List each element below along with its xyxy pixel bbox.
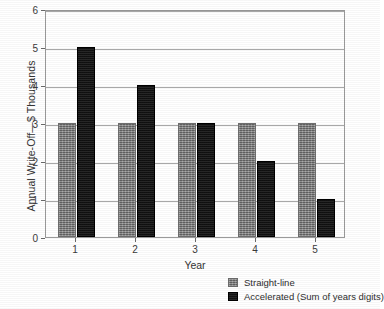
y-tick-label: 4 — [20, 81, 38, 92]
x-tick-label: 4 — [243, 244, 267, 255]
bar — [197, 123, 215, 237]
y-axis-title: Annual Write-Off—$ Thousands — [25, 31, 37, 241]
plot-area — [45, 10, 345, 238]
x-tick-mark — [135, 238, 136, 242]
bar — [118, 123, 136, 237]
x-tick-mark — [255, 238, 256, 242]
y-tick-mark — [41, 238, 45, 239]
y-tick-label: 5 — [20, 43, 38, 54]
y-tick-label: 6 — [20, 5, 38, 16]
bar — [257, 161, 275, 237]
bar-group — [46, 11, 106, 237]
legend-label: Straight-line — [244, 277, 295, 288]
x-tick-label: 1 — [63, 244, 87, 255]
bar-group — [106, 11, 166, 237]
x-tick-mark — [315, 238, 316, 242]
bar-group — [286, 11, 346, 237]
x-tick-label: 3 — [183, 244, 207, 255]
bar-group — [226, 11, 286, 237]
legend-swatch — [228, 292, 238, 301]
bar — [58, 123, 76, 237]
bar — [137, 85, 155, 237]
x-tick-mark — [195, 238, 196, 242]
bar — [317, 199, 335, 237]
x-axis-title: Year — [45, 259, 345, 271]
legend-item: Accelerated (Sum of years digits) — [228, 290, 384, 303]
bar-groups — [46, 11, 344, 237]
y-tick-label: 3 — [20, 119, 38, 130]
bar — [298, 123, 316, 237]
x-tick-label: 5 — [303, 244, 327, 255]
legend-item: Straight-line — [228, 276, 384, 289]
y-tick-label: 0 — [20, 233, 38, 244]
bar — [178, 123, 196, 237]
legend-swatch — [228, 278, 238, 287]
bar — [238, 123, 256, 237]
bar — [77, 47, 95, 237]
legend-label: Accelerated (Sum of years digits) — [244, 291, 384, 302]
x-tick-label: 2 — [123, 244, 147, 255]
chart-legend: Straight-lineAccelerated (Sum of years d… — [228, 276, 384, 304]
bar-group — [166, 11, 226, 237]
y-tick-label: 1 — [20, 195, 38, 206]
y-tick-label: 2 — [20, 157, 38, 168]
x-tick-mark — [75, 238, 76, 242]
